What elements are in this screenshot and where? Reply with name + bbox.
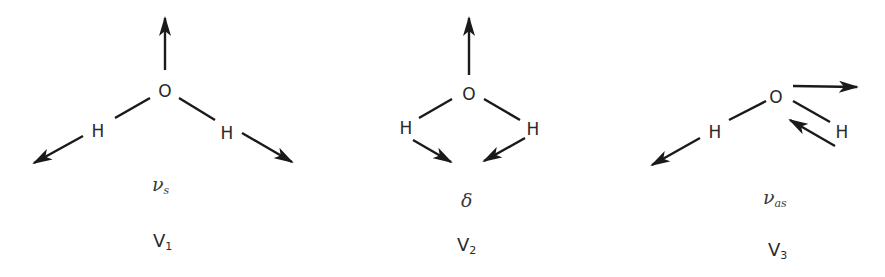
mode-symbol: δ (461, 189, 472, 211)
hydrogen-atom-right: H (527, 119, 540, 139)
hydrogen-atom-right: H (221, 123, 234, 143)
mode-label: V3 (768, 239, 787, 262)
mode-label: V1 (153, 230, 172, 253)
oh-bond-right (484, 99, 520, 120)
hydrogen-atom-right: H (836, 122, 849, 142)
oh-bond-left (729, 101, 766, 120)
mode-v2: O H H δ V2 (400, 18, 540, 257)
oh-bond-left (115, 98, 150, 118)
mode-label: V2 (457, 234, 476, 257)
mode-v3: O H H νas V3 (652, 86, 857, 262)
hydrogen-left-displacement-arrow (34, 136, 83, 163)
hydrogen-atom-left: H (92, 121, 105, 141)
water-vibrational-modes-diagram: O H H νs V1 O H H δ V2 O H H νas V3 (0, 0, 885, 277)
oh-bond-left (419, 99, 452, 118)
hydrogen-left-displacement-arrow (652, 138, 700, 165)
oxygen-displacement-arrow (793, 86, 857, 87)
mode-symbol: νas (763, 186, 787, 210)
oh-bond-right (793, 101, 830, 122)
hydrogen-right-displacement-arrow (484, 138, 525, 161)
oxygen-atom: O (462, 84, 475, 104)
hydrogen-right-displacement-arrow (790, 120, 835, 146)
oxygen-atom: O (158, 81, 171, 101)
mode-symbol: νs (152, 173, 170, 197)
hydrogen-right-displacement-arrow (242, 133, 292, 162)
hydrogen-left-displacement-arrow (413, 140, 451, 162)
hydrogen-atom-left: H (400, 118, 413, 138)
hydrogen-atom-left: H (709, 122, 722, 142)
mode-v1: O H H νs V1 (34, 18, 292, 253)
oxygen-atom: O (769, 87, 782, 107)
oh-bond-right (179, 98, 215, 120)
